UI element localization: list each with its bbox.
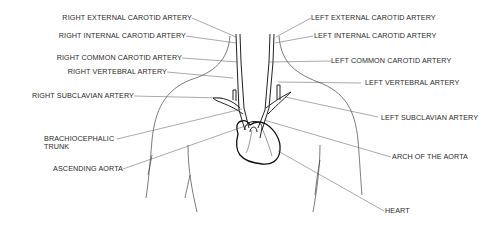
label-left-subclavian-artery: LEFT SUBCLAVIAN ARTERY — [381, 114, 478, 122]
label-right-subclavian-artery: RIGHT SUBCLAVIAN ARTERY — [32, 92, 134, 100]
label-brachiocephalic-line2: TRUNK — [44, 143, 114, 151]
label-right-common-carotid-artery: RIGHT COMMON CAROTID ARTERY — [57, 54, 182, 62]
label-arch-of-the-aorta: ARCH OF THE AORTA — [392, 153, 468, 161]
label-right-internal-carotid-artery: RIGHT INTERNAL CAROTID ARTERY — [59, 32, 186, 40]
label-left-vertebral-artery: LEFT VERTEBRAL ARTERY — [365, 79, 459, 87]
label-left-internal-carotid-artery: LEFT INTERNAL CAROTID ARTERY — [314, 32, 436, 40]
label-left-external-carotid-artery: LEFT EXTERNAL CAROTID ARTERY — [311, 14, 436, 22]
label-ascending-aorta: ASCENDING AORTA — [53, 165, 123, 173]
label-heart: HEART — [385, 207, 410, 215]
label-right-external-carotid-artery: RIGHT EXTERNAL CAROTID ARTERY — [62, 14, 192, 22]
label-left-common-carotid-artery: LEFT COMMON CAROTID ARTERY — [331, 57, 451, 65]
label-right-vertebral-artery: RIGHT VERTEBRAL ARTERY — [68, 68, 167, 76]
label-brachiocephalic-trunk: BRACHIOCEPHALIC TRUNK — [44, 135, 114, 151]
